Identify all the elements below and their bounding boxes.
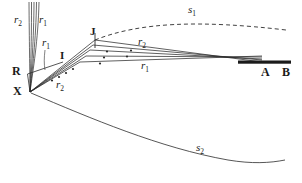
tick-dot bbox=[126, 55, 128, 57]
label-point-X: X bbox=[13, 85, 22, 97]
label-s1: s1 bbox=[188, 4, 196, 18]
label-s2: s2 bbox=[196, 142, 204, 156]
tick-dot bbox=[103, 56, 105, 58]
label-r2-low: r2 bbox=[56, 79, 64, 93]
label-r1-right: r1 bbox=[141, 60, 149, 74]
curve-s1-dashed bbox=[95, 24, 286, 40]
label-r1-top-subscript: 1 bbox=[43, 19, 47, 28]
label-r2-top-subscript: 2 bbox=[18, 19, 22, 28]
tick-dot bbox=[72, 68, 74, 70]
vertical-ray-bundle bbox=[29, 2, 39, 92]
label-r1-top: r1 bbox=[39, 14, 47, 28]
tick-dot bbox=[106, 50, 108, 52]
screen-bar-AB bbox=[238, 61, 291, 64]
label-r1-right-subscript: 1 bbox=[145, 65, 149, 74]
label-point-A: A bbox=[261, 66, 270, 78]
tick-dot bbox=[99, 62, 101, 64]
tick-dot bbox=[65, 72, 67, 74]
label-s2-subscript: 2 bbox=[200, 147, 204, 156]
label-point-R: R bbox=[12, 65, 21, 77]
label-s1-subscript: 1 bbox=[192, 9, 196, 18]
label-point-B: B bbox=[282, 66, 290, 78]
label-r2-right: r2 bbox=[138, 36, 146, 50]
label-r2-right-subscript: 2 bbox=[142, 41, 146, 50]
label-r1-mid: r1 bbox=[42, 37, 50, 51]
label-r2-low-subscript: 2 bbox=[60, 84, 64, 93]
label-point-J: J bbox=[90, 26, 96, 37]
tick-dot bbox=[51, 79, 53, 81]
label-r2-top: r2 bbox=[14, 14, 22, 28]
label-r1-mid-subscript: 1 bbox=[46, 42, 50, 51]
tick-dot bbox=[130, 49, 132, 51]
leader-line-r1 bbox=[44, 50, 45, 70]
label-point-I: I bbox=[60, 50, 64, 61]
curve-s2 bbox=[31, 93, 285, 163]
ray-diagram-figure: r2 r1 r1 r2 r2 r1 s1 s2 R X I J A B bbox=[0, 0, 302, 183]
vertical-ray-1 bbox=[29, 2, 30, 92]
